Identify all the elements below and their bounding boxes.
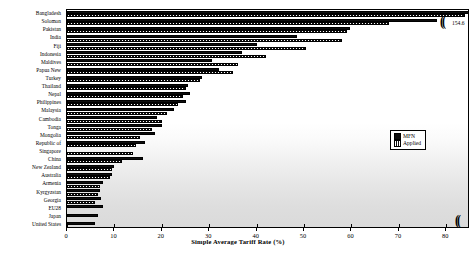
bar-applied	[67, 47, 306, 50]
x-axis: 01020304050607080	[66, 228, 469, 229]
y-axis-label: Singapore	[39, 148, 61, 154]
bar-group	[67, 188, 468, 196]
y-axis-label: Malaysia	[41, 107, 61, 113]
bar-mfn	[67, 214, 98, 217]
x-tick-inner	[114, 224, 115, 227]
bar-applied	[67, 128, 152, 131]
bar-applied	[67, 87, 186, 90]
mfn-swatch-icon	[394, 133, 401, 140]
bar-applied	[67, 30, 347, 33]
y-axis-category-labels: BangladeshSolomonPakistanIndiaFijiIndone…	[0, 9, 64, 228]
bar-applied	[67, 79, 200, 82]
bar-applied	[67, 22, 389, 25]
x-tick-inner	[351, 224, 352, 227]
x-tick-inner	[209, 224, 210, 227]
y-axis-label: Australia	[41, 172, 61, 178]
x-tick	[113, 228, 114, 231]
y-axis-label: Maldives	[41, 59, 61, 65]
bar-applied	[67, 185, 100, 188]
x-tick-inner	[399, 224, 400, 227]
bar-applied	[67, 136, 140, 139]
bar-group	[67, 18, 468, 26]
bar-group	[67, 34, 468, 42]
y-axis-label: Kyrgyzstan	[36, 189, 61, 195]
bar-group	[67, 99, 468, 107]
bar-applied	[67, 201, 95, 204]
x-tick	[208, 228, 209, 231]
bar-applied	[67, 176, 110, 179]
applied-swatch-icon	[394, 140, 401, 147]
legend-item-mfn: MFN	[394, 133, 421, 140]
bar-group	[67, 197, 468, 205]
chart-legend: MFN Applied	[390, 130, 426, 150]
y-axis-label: Georgia	[44, 197, 61, 203]
bar-mfn	[67, 222, 95, 225]
bar-group	[67, 107, 468, 115]
x-tick	[161, 228, 162, 231]
bar-applied	[67, 39, 342, 42]
y-axis-label: Thailand	[42, 83, 61, 89]
bar-group	[67, 59, 468, 67]
y-axis-label: Bangladesh	[36, 10, 61, 16]
x-tick	[398, 228, 399, 231]
y-axis-label: Philippines	[37, 99, 61, 105]
bar-group	[67, 10, 468, 18]
bar-group	[67, 83, 468, 91]
bar-mfn	[67, 205, 103, 208]
x-tick-inner	[257, 224, 258, 227]
y-axis-label: India	[50, 34, 61, 40]
y-axis-label: Fiji	[54, 43, 62, 49]
x-tick	[66, 228, 67, 231]
bar-applied	[67, 63, 238, 66]
axis-break-icon-top: ((	[440, 12, 444, 31]
bar-applied	[67, 112, 167, 115]
y-axis-label: EU28	[48, 205, 61, 211]
x-axis-title: Simple Average Tariff Rate (%)	[0, 238, 476, 245]
x-tick	[303, 228, 304, 231]
bar-applied	[67, 168, 112, 171]
bar-group	[67, 115, 468, 123]
bar-group	[67, 180, 468, 188]
y-axis-label: Papua New	[36, 67, 61, 73]
y-axis-label: Pakistan	[43, 26, 61, 32]
y-axis-label: Cambodia	[39, 116, 61, 122]
bar-applied	[67, 14, 465, 17]
bar-applied	[67, 160, 122, 163]
bar-group	[67, 221, 468, 228]
x-tick	[445, 228, 446, 231]
x-tick-inner	[446, 224, 447, 227]
bar-applied	[67, 152, 133, 155]
x-tick-inner	[67, 224, 68, 227]
bar-group	[67, 213, 468, 221]
bar-applied	[67, 95, 183, 98]
plot-area	[66, 9, 469, 228]
y-axis-label: Mongolia	[40, 132, 61, 138]
legend-label-applied: Applied	[403, 140, 421, 147]
bar-applied	[67, 71, 233, 74]
bar-applied	[67, 103, 178, 106]
bar-group	[67, 75, 468, 83]
x-tick-inner	[304, 224, 305, 227]
bar-applied	[67, 55, 266, 58]
x-tick-inner	[162, 224, 163, 227]
y-axis-label: Turkey	[46, 75, 61, 81]
y-axis-label: Republic of	[36, 140, 61, 146]
legend-item-applied: Applied	[394, 140, 421, 147]
bar-group	[67, 91, 468, 99]
bar-group	[67, 26, 468, 34]
y-axis-label: China	[48, 156, 61, 162]
bar-group	[67, 67, 468, 75]
y-axis-label: New Zealand	[32, 164, 61, 170]
bar-applied	[67, 193, 98, 196]
axis-break-icon-bottom: ((	[455, 211, 459, 230]
x-tick	[256, 228, 257, 231]
x-tick	[350, 228, 351, 231]
bar-applied	[67, 120, 162, 123]
y-axis-label: United States	[32, 221, 61, 227]
y-axis-label: Japan	[49, 213, 61, 219]
tariff-rate-bar-chart: BangladeshSolomonPakistanIndiaFijiIndone…	[0, 0, 476, 255]
bar-group	[67, 205, 468, 213]
bar-group	[67, 51, 468, 59]
bar-group	[67, 164, 468, 172]
outlier-value-label: 154.6	[452, 20, 465, 26]
